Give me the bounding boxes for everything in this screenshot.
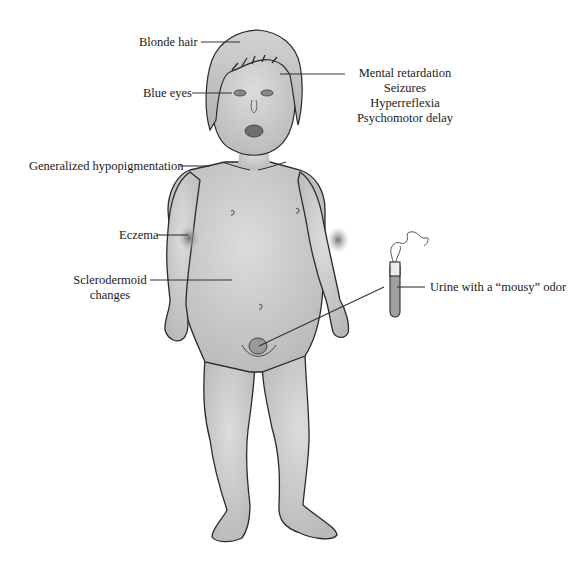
label-psychomotor-delay: Psychomotor delay [350,111,460,126]
label-sclerodermoid-line2: changes [70,288,150,303]
eczema-patch-right [327,227,349,253]
pku-illustration: Blonde hair Blue eyes Generalized hypopi… [0,0,578,568]
legs [204,355,337,542]
test-tube-icon [390,232,428,317]
label-mental-retardation: Mental retardation [350,66,460,81]
mouth [245,125,263,137]
label-hyperreflexia: Hyperreflexia [350,96,460,111]
label-sclerodermoid-line1: Sclerodermoid [70,273,150,288]
eczema-patch-left [178,225,200,251]
label-sclerodermoid: Sclerodermoid changes [70,273,150,303]
label-eczema: Eczema [119,228,159,243]
label-urine: Urine with a “mousy” odor [430,280,566,295]
bladder [249,338,267,354]
left-eye [234,90,246,96]
label-seizures: Seizures [350,81,460,96]
label-neurologic: Mental retardation Seizures Hyperreflexi… [350,66,460,126]
label-blonde-hair: Blonde hair [139,35,198,50]
label-hypopigmentation: Generalized hypopigmentation [29,159,183,174]
right-eye [261,90,273,96]
label-blue-eyes: Blue eyes [143,86,192,101]
